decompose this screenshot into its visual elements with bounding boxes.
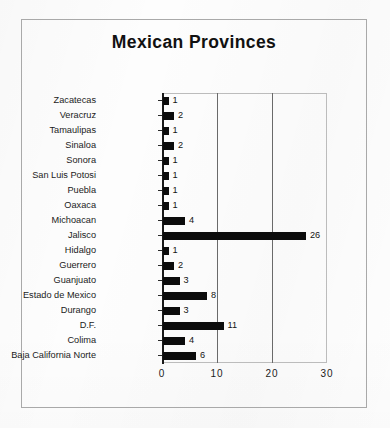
bar-row: Veracruz2 (0, 108, 330, 123)
category-label: Baja California Norte (11, 348, 96, 363)
category-tick (158, 145, 162, 146)
bar (163, 337, 185, 345)
bar-rows: Zacatecas1Veracruz2Tamaulipas1Sinaloa2So… (0, 0, 390, 428)
bar-row: Oaxaca1 (0, 198, 330, 213)
bar (163, 187, 169, 195)
bar-row: Guerrero2 (0, 258, 330, 273)
bar (163, 97, 169, 105)
category-tick (158, 220, 162, 221)
category-label: Puebla (67, 183, 96, 198)
category-tick (158, 190, 162, 191)
bar (163, 127, 169, 135)
bar (163, 112, 174, 120)
bar-value-label: 1 (173, 168, 178, 183)
category-label: Guanjuato (54, 273, 96, 288)
category-label: Oaxaca (64, 198, 96, 213)
bar-row: D.F.11 (0, 318, 330, 333)
bar-row: Jalisco26 (0, 228, 330, 243)
bar-row: Puebla1 (0, 183, 330, 198)
category-tick (158, 100, 162, 101)
category-label: Michoacan (52, 213, 96, 228)
category-tick (158, 265, 162, 266)
bar (163, 232, 306, 240)
bar (163, 262, 174, 270)
bar-value-label: 2 (178, 138, 183, 153)
bar-value-label: 6 (200, 348, 205, 363)
bar-row: Durango3 (0, 303, 330, 318)
category-label: Durango (61, 303, 96, 318)
category-label: San Luis Potosi (32, 168, 96, 183)
bar-value-label: 2 (178, 108, 183, 123)
bar (163, 322, 224, 330)
bar-row: Tamaulipas1 (0, 123, 330, 138)
category-tick (158, 280, 162, 281)
bar (163, 292, 207, 300)
category-label: Jalisco (68, 228, 96, 243)
bar-row: Guanjuato3 (0, 273, 330, 288)
bar-value-label: 11 (228, 318, 238, 333)
bar-value-label: 4 (189, 213, 194, 228)
category-tick (158, 295, 162, 296)
bar-value-label: 1 (173, 198, 178, 213)
category-label: D.F. (80, 318, 96, 333)
category-label: Hidalgo (65, 243, 96, 258)
bar-value-label: 1 (173, 243, 178, 258)
bar-row: Colima4 (0, 333, 330, 348)
category-tick (158, 355, 162, 356)
xtick-label-30: 30 (312, 368, 342, 379)
bar (163, 277, 180, 285)
bar-value-label: 3 (184, 303, 189, 318)
bar-value-label: 1 (173, 153, 178, 168)
bar (163, 172, 169, 180)
bar-value-label: 2 (178, 258, 183, 273)
bar-row: Michoacan4 (0, 213, 330, 228)
bar-value-label: 3 (184, 273, 189, 288)
category-tick (158, 250, 162, 251)
chart-figure: Mexican Provinces Zacatecas1Veracruz2Tam… (0, 0, 390, 428)
category-label: Colima (67, 333, 96, 348)
bar-row: Sinaloa2 (0, 138, 330, 153)
bar (163, 247, 169, 255)
category-tick (158, 115, 162, 116)
bar-value-label: 1 (173, 93, 178, 108)
bar-value-label: 8 (211, 288, 216, 303)
category-label: Veracruz (60, 108, 96, 123)
category-label: Guerrero (59, 258, 96, 273)
bar-value-label: 26 (310, 228, 320, 243)
bar-value-label: 4 (189, 333, 194, 348)
category-tick (158, 130, 162, 131)
xtick-label-0: 0 (147, 368, 177, 379)
xtick-label-10: 10 (202, 368, 232, 379)
bar-row: San Luis Potosi1 (0, 168, 330, 183)
category-tick (158, 205, 162, 206)
bar-value-label: 1 (173, 123, 178, 138)
bar (163, 142, 174, 150)
category-tick (158, 310, 162, 311)
category-tick (158, 325, 162, 326)
category-tick (158, 340, 162, 341)
category-tick (158, 235, 162, 236)
bar-value-label: 1 (173, 183, 178, 198)
xtick-label-20: 20 (257, 368, 287, 379)
bar (163, 307, 180, 315)
category-label: Zacatecas (54, 93, 96, 108)
bar-row: Zacatecas1 (0, 93, 330, 108)
bar-row: Hidalgo1 (0, 243, 330, 258)
bar-row: Sonora1 (0, 153, 330, 168)
bar (163, 217, 185, 225)
category-label: Sinaloa (65, 138, 96, 153)
category-label: Sonora (66, 153, 96, 168)
category-tick (158, 175, 162, 176)
bar (163, 157, 169, 165)
category-tick (158, 160, 162, 161)
bar (163, 352, 196, 360)
category-label: Estado de Mexico (23, 288, 96, 303)
category-label: Tamaulipas (50, 123, 96, 138)
bar (163, 202, 169, 210)
bar-row: Baja California Norte6 (0, 348, 330, 363)
bar-row: Estado de Mexico8 (0, 288, 330, 303)
